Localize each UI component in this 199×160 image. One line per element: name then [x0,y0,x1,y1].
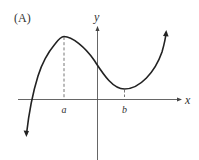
curve-arrow-left-icon [24,131,29,138]
panel-label: (A) [14,11,31,25]
curve-arrow-right-icon [163,30,169,36]
function-graph: (A) y x a b [0,0,199,160]
x-axis-label: x [184,93,191,107]
point-b-label: b [122,104,127,115]
y-axis-label: y [93,10,100,24]
function-curve [27,33,167,134]
point-a-label: a [62,104,67,115]
